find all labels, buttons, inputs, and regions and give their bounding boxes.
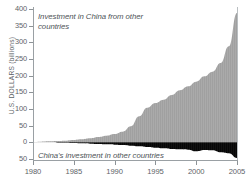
outbound-investment-annotation: China's investment in other countries [38,151,198,161]
inbound-investment-area [33,13,237,142]
investment-area-chart: U.S. DOLLARS (billions) 4003503002502001… [0,0,247,185]
inbound-investment-annotation: Investment in China from other countries [38,12,168,31]
